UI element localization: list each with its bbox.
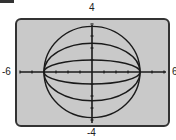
- axes: [20, 24, 166, 123]
- graph-plot: [0, 0, 176, 140]
